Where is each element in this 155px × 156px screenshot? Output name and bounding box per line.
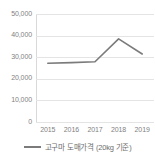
gridline	[36, 122, 154, 123]
series-line-sweet-potato-wholesale-price	[48, 39, 142, 63]
y-axis-tick-label: 40,000	[0, 31, 32, 38]
y-axis-tick-label: 0	[0, 118, 32, 125]
x-axis-tick-label: 2016	[60, 126, 84, 133]
line-chart: 50,00040,00030,00020,00010,0000 20152016…	[0, 0, 155, 156]
y-axis-tick-label: 50,000	[0, 10, 32, 17]
series-layer	[36, 14, 154, 122]
chart-legend: 고구마 도매가격 (20kg 기준)	[0, 141, 155, 152]
plot-area	[36, 14, 154, 122]
y-axis-tick-label: 20,000	[0, 74, 32, 81]
x-axis-tick-label: 2019	[130, 126, 154, 133]
y-axis-tick-label: 10,000	[0, 96, 32, 103]
x-axis-labels: 20152016201720182019	[36, 126, 154, 133]
y-axis-tick-label: 30,000	[0, 53, 32, 60]
legend-item-label: 고구마 도매가격 (20kg 기준)	[45, 141, 132, 152]
legend-line-swatch-icon	[24, 146, 41, 148]
x-axis-tick-label: 2017	[83, 126, 107, 133]
x-axis-tick-label: 2015	[36, 126, 60, 133]
x-axis-tick-label: 2018	[107, 126, 131, 133]
